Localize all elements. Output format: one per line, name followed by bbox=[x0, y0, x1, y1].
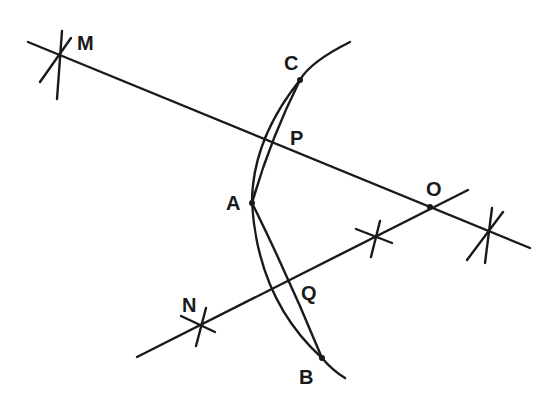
label-A: A bbox=[226, 192, 240, 214]
geometry-diagram: M C P A O N Q B bbox=[0, 0, 560, 414]
label-O: O bbox=[426, 178, 442, 200]
label-P: P bbox=[290, 127, 303, 149]
point-B bbox=[319, 355, 325, 361]
label-C: C bbox=[284, 52, 298, 74]
point-C bbox=[297, 77, 303, 83]
line-MO bbox=[28, 42, 530, 248]
arc-CAB bbox=[252, 42, 350, 378]
construction-mark-NO bbox=[356, 221, 392, 257]
label-Q: Q bbox=[301, 282, 317, 304]
construction-mark-M bbox=[40, 31, 71, 99]
point-A bbox=[249, 200, 255, 206]
label-M: M bbox=[77, 32, 94, 54]
label-N: N bbox=[182, 294, 196, 316]
label-B: B bbox=[299, 366, 313, 388]
line-NO bbox=[137, 190, 468, 357]
point-O bbox=[427, 204, 433, 210]
